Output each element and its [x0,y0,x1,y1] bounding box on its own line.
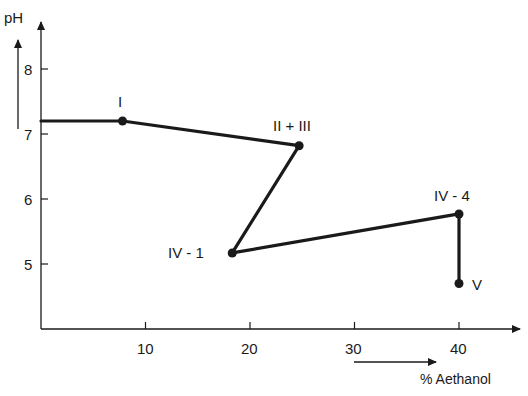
data-point-marker [118,117,127,126]
x-tick-label-30: 30 [345,341,362,356]
point-label-iv-4: IV - 4 [434,188,470,203]
point-label-i: I [118,94,122,109]
x-tick-label-10: 10 [137,341,154,356]
data-line [41,121,459,284]
y-tick-label-8: 8 [24,62,32,77]
data-markers [118,117,463,289]
data-point-marker [228,248,237,257]
x-tick-label-40: 40 [450,341,467,356]
x-tick-label-20: 20 [241,341,258,356]
data-point-marker [455,279,464,288]
point-label-ii-iii: II + III [273,118,311,133]
y-ticks [41,69,48,264]
data-point-marker [455,209,464,218]
x-axis-title: % Aethanol [420,372,491,386]
y-tick-label-7: 7 [24,127,32,142]
y-tick-label-6: 6 [24,192,32,207]
x-ticks [146,322,460,329]
y-tick-label-5: 5 [24,257,32,272]
point-label-v: V [472,277,482,292]
point-label-iv-1: IV - 1 [168,245,204,260]
y-axis-title: pH [4,10,23,25]
data-point-marker [295,141,304,150]
